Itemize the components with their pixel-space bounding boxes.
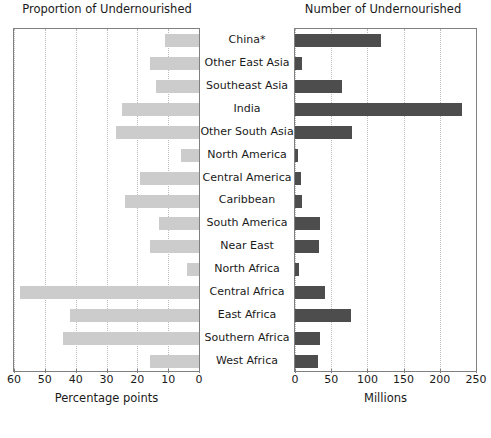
category-label: Central Africa [210,286,285,297]
category-label: West Africa [216,355,278,366]
bar [122,103,199,116]
axis-tick-label: 10 [161,373,175,386]
axis-tick-label: 20 [130,373,144,386]
category-row: West Africa [200,349,294,372]
bar [156,80,199,93]
bar [63,332,199,345]
category-label: North America [207,149,287,160]
bar-row [14,190,199,213]
bar-row [295,258,476,281]
axis-tick-label: 0 [196,373,203,386]
category-row: Other East Asia [200,51,294,74]
left-axis-label: Percentage points [13,391,200,405]
bar-row [14,167,199,190]
bar [150,240,199,253]
category-row: North America [200,143,294,166]
bar-row [295,327,476,350]
bar-row [295,98,476,121]
axis-tick-label: 60 [7,373,21,386]
bar [125,195,199,208]
bar-row [295,29,476,52]
axis-tick-label: 100 [357,373,378,386]
bar-row [295,212,476,235]
category-label: North Africa [214,263,280,274]
bar [295,263,299,276]
bar [150,355,199,368]
bar-row [14,98,199,121]
bar [165,34,199,47]
category-row: Caribbean [200,189,294,212]
axis-tick-label: 250 [466,373,487,386]
bar-row [295,281,476,304]
category-label: China* [229,34,266,45]
bar-row [14,75,199,98]
bar [70,309,200,322]
bar [159,217,199,230]
bar [295,80,342,93]
bar-row [14,212,199,235]
bar-row [14,304,199,327]
bar-row [295,121,476,144]
axis-tick-label: 0 [292,373,299,386]
category-row: India [200,97,294,120]
category-row: Central Africa [200,280,294,303]
right-bar-rows [295,29,476,371]
axis-tick-label: 40 [69,373,83,386]
category-row: Near East [200,234,294,257]
category-label: Southern Africa [205,332,290,343]
category-row: Southeast Asia [200,74,294,97]
left-bar-rows [14,29,199,371]
category-label: Other East Asia [204,57,289,68]
axis-tick-label: 50 [38,373,52,386]
left-x-axis: 6050403020100 [13,373,200,389]
category-label: Other South Asia [200,126,293,137]
axis-tick-label: 30 [100,373,114,386]
right-x-axis: 050100150200250 [294,373,477,389]
axis-tick-label: 200 [429,373,450,386]
bar-row [295,304,476,327]
bar-row [14,235,199,258]
bar [150,57,199,70]
bar-row [14,144,199,167]
category-label: Central America [203,172,292,183]
category-label: South America [207,217,288,228]
bar-row [295,350,476,372]
category-label: India [234,103,261,114]
bar [295,286,325,299]
bar [140,172,199,185]
right-axis-label: Millions [294,391,477,405]
bar-row [14,327,199,350]
bar [295,240,319,253]
bar-row [14,121,199,144]
bar [295,149,298,162]
right-panel-title: Number of Undernourished [290,2,476,16]
axis-tick-label: 150 [393,373,414,386]
category-label-column: China*Other East AsiaSoutheast AsiaIndia… [200,28,294,372]
gridline [476,29,477,371]
bar [20,286,199,299]
axis-tick-label: 50 [324,373,338,386]
left-plot-area [13,28,200,372]
bar-row [295,167,476,190]
bar [295,34,381,47]
bar-row [14,52,199,75]
bar [295,172,301,185]
bar [295,355,318,368]
bar-row [295,190,476,213]
category-row: East Africa [200,303,294,326]
category-row: North Africa [200,257,294,280]
category-label: Caribbean [219,194,275,205]
bar-row [295,52,476,75]
category-row: South America [200,211,294,234]
bar [295,309,351,322]
bar [295,103,462,116]
bar-row [295,144,476,167]
category-row: Southern Africa [200,326,294,349]
bar [295,217,320,230]
undernourishment-paired-bar-chart: Proportion of Undernourished Number of U… [0,0,491,438]
category-label: Southeast Asia [206,80,288,91]
bar [116,126,199,139]
category-label: East Africa [218,309,277,320]
category-row: China* [200,28,294,51]
bar [295,332,320,345]
